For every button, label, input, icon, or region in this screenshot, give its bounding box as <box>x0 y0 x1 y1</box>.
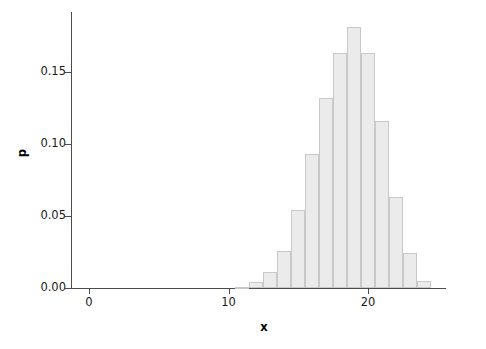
bar <box>263 272 277 288</box>
x-tick-label: 0 <box>69 297 109 309</box>
y-tick-label: 0.00 <box>6 282 66 294</box>
bar <box>333 53 347 288</box>
bar <box>417 281 431 288</box>
y-axis-title: p <box>15 133 29 173</box>
bar <box>361 53 375 288</box>
bar <box>235 287 249 289</box>
x-tick-label: 10 <box>209 297 249 309</box>
x-axis-title: x <box>244 320 284 334</box>
bar <box>389 197 403 288</box>
x-tick-mark <box>229 288 230 294</box>
y-tick-label: 0.05 <box>6 210 66 222</box>
y-tick-label: 0.15 <box>6 66 66 78</box>
binomial-distribution-chart: 0.000.050.100.15 01020 x p <box>0 0 486 349</box>
bar <box>403 253 417 288</box>
bar <box>305 154 319 288</box>
bar <box>277 251 291 288</box>
bar <box>319 98 333 288</box>
bar <box>249 282 263 288</box>
x-tick-mark <box>89 288 90 294</box>
bar <box>375 121 389 288</box>
x-tick-mark <box>368 288 369 294</box>
bar <box>291 210 305 288</box>
bar <box>347 27 361 288</box>
x-tick-label: 20 <box>348 297 388 309</box>
